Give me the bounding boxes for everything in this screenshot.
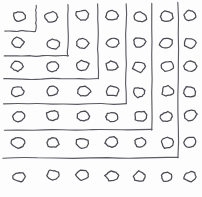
corner-2-vertical-segment	[67, 4, 68, 55]
nested-l-grid-figure	[0, 0, 202, 197]
corner-1-vertical-segment	[36, 5, 37, 30]
figure-background	[0, 0, 202, 197]
sketch-canvas	[0, 0, 202, 197]
